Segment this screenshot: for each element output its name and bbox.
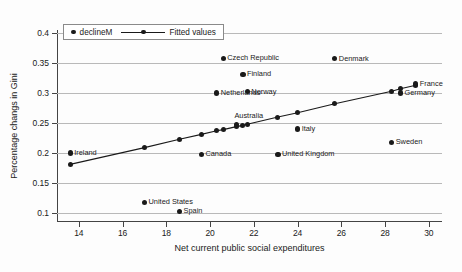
y-tick-label: 0.4 xyxy=(37,29,49,38)
data-point-label: United Kingdom xyxy=(282,150,335,157)
data-point[interactable] xyxy=(199,152,204,157)
data-point[interactable] xyxy=(398,90,403,95)
x-tick-label: 28 xyxy=(380,229,389,238)
data-point-label: Czech Republic xyxy=(227,54,279,61)
y-tick-label: 0.25 xyxy=(32,119,49,128)
data-point[interactable] xyxy=(275,152,280,157)
data-point-label: Norway xyxy=(251,88,276,95)
x-tick xyxy=(429,222,430,227)
x-tick xyxy=(385,222,386,227)
data-point[interactable] xyxy=(214,90,219,95)
fitted-point xyxy=(221,127,226,132)
x-tick-label: 14 xyxy=(74,229,83,238)
data-point[interactable] xyxy=(389,140,394,145)
data-point[interactable] xyxy=(221,56,226,61)
x-tick-label: 20 xyxy=(205,229,214,238)
legend-label: Fitted values xyxy=(169,28,215,37)
y-axis-title: Percentage changs in Gini xyxy=(9,73,19,179)
x-tick-label: 26 xyxy=(337,229,346,238)
fitted-point xyxy=(177,137,182,142)
data-point[interactable] xyxy=(240,72,245,77)
legend-item-declinem[interactable]: declineM xyxy=(71,28,112,37)
data-point-label: France xyxy=(420,80,443,87)
data-point-label: Canada xyxy=(205,150,231,157)
y-tick-label: 0.2 xyxy=(37,149,49,158)
x-tick xyxy=(298,222,299,227)
circle-marker-icon xyxy=(141,30,146,35)
x-tick-label: 30 xyxy=(424,229,433,238)
y-tick-label: 0.1 xyxy=(37,209,49,218)
fitted-point xyxy=(389,89,394,94)
data-point[interactable] xyxy=(413,81,418,86)
data-point-label: Sweden xyxy=(396,138,423,145)
y-tick-label: 0.35 xyxy=(32,59,49,68)
circle-marker-icon xyxy=(71,30,76,35)
fitted-point xyxy=(245,122,250,127)
x-tick-label: 18 xyxy=(162,229,171,238)
data-point[interactable] xyxy=(68,150,73,155)
data-point-label: Australia xyxy=(234,112,263,119)
data-point-label: Ireland xyxy=(74,149,97,156)
x-tick xyxy=(341,222,342,227)
chart-figure: Percentage changs in Gini Net current pu… xyxy=(0,0,462,272)
legend-label: declineM xyxy=(80,28,113,37)
data-point-label: Spain xyxy=(184,207,203,214)
x-tick xyxy=(210,222,211,227)
data-point-label: Finland xyxy=(247,71,271,78)
chart-legend[interactable]: declineM Fitted values xyxy=(63,24,224,40)
y-tick-label: 0.3 xyxy=(37,89,49,98)
x-tick xyxy=(254,222,255,227)
x-axis-ticks: 141618202224262830 xyxy=(57,222,442,246)
x-tick-label: 24 xyxy=(293,229,302,238)
data-point-label: United States xyxy=(149,198,193,205)
fitted-point xyxy=(199,132,204,137)
data-point[interactable] xyxy=(177,209,182,214)
x-tick-label: 22 xyxy=(249,229,258,238)
x-tick xyxy=(123,222,124,227)
x-tick-label: 16 xyxy=(118,229,127,238)
data-point[interactable] xyxy=(295,126,300,131)
x-tick xyxy=(166,222,167,227)
data-point-label: Italy xyxy=(302,125,316,132)
fitted-point xyxy=(68,162,73,167)
data-point-label: Denmark xyxy=(339,55,369,62)
data-point-label: Germany xyxy=(404,89,434,96)
line-marker-icon xyxy=(121,30,165,35)
legend-item-fitted-values[interactable]: Fitted values xyxy=(121,28,215,37)
plot-area: 0.10.150.20.250.30.350.4 141618202224262… xyxy=(57,30,442,222)
y-tick-label: 0.15 xyxy=(32,179,49,188)
data-point[interactable] xyxy=(142,200,147,205)
x-tick xyxy=(79,222,80,227)
